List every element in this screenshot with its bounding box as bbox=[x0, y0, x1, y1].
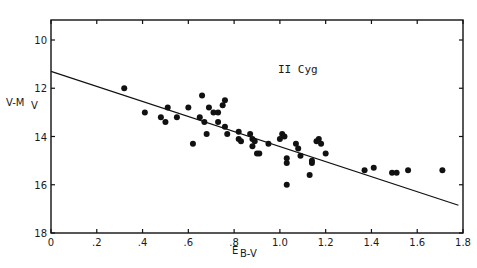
data-point bbox=[165, 105, 171, 111]
y-tick-label: 14 bbox=[34, 132, 47, 143]
cluster-annotation: II Cyg bbox=[278, 63, 318, 76]
data-point bbox=[284, 155, 290, 161]
data-point bbox=[284, 182, 290, 188]
data-point bbox=[394, 170, 400, 176]
data-point bbox=[158, 114, 164, 120]
data-point bbox=[201, 119, 207, 125]
y-axis-title-main: V-M bbox=[6, 97, 25, 108]
data-point bbox=[121, 85, 127, 91]
x-tick-label: .4 bbox=[138, 237, 148, 248]
x-tick-label: 1.0 bbox=[272, 237, 288, 248]
data-point bbox=[174, 114, 180, 120]
x-axis-title-sub: B-V bbox=[240, 248, 257, 259]
data-point bbox=[215, 109, 221, 115]
data-point bbox=[323, 150, 329, 156]
x-tick-label: 1.8 bbox=[455, 237, 471, 248]
data-point bbox=[256, 150, 262, 156]
y-tick-label: 10 bbox=[34, 35, 47, 46]
y-tick-label: 18 bbox=[34, 228, 47, 239]
data-point bbox=[405, 167, 411, 173]
scatter-chart: 0.2.4.6.81.01.21.41.61.8 1012141618 II C… bbox=[0, 0, 477, 268]
data-point bbox=[190, 141, 196, 147]
y-tick-label: 16 bbox=[34, 180, 47, 191]
x-tick-label: .6 bbox=[184, 237, 194, 248]
data-point bbox=[204, 131, 210, 137]
y-axis-title-sub: V bbox=[31, 100, 38, 111]
x-tick-label: 0 bbox=[48, 237, 54, 248]
data-point bbox=[297, 153, 303, 159]
data-point bbox=[281, 134, 287, 140]
data-point bbox=[197, 114, 203, 120]
data-point bbox=[185, 105, 191, 111]
data-point bbox=[318, 141, 324, 147]
data-point bbox=[142, 109, 148, 115]
y-tick-label: 12 bbox=[34, 83, 47, 94]
data-point bbox=[224, 131, 230, 137]
data-point bbox=[162, 119, 168, 125]
data-point bbox=[295, 146, 301, 152]
x-tick-label: 1.4 bbox=[363, 237, 379, 248]
data-point bbox=[371, 165, 377, 171]
data-point bbox=[206, 105, 212, 111]
data-point bbox=[215, 119, 221, 125]
x-tick-label: 1.2 bbox=[318, 237, 334, 248]
data-point bbox=[222, 124, 228, 130]
data-point bbox=[236, 129, 242, 135]
data-point bbox=[439, 167, 445, 173]
data-point bbox=[252, 138, 258, 144]
data-point bbox=[238, 138, 244, 144]
x-axis-title-main: E bbox=[232, 245, 238, 256]
data-point bbox=[222, 97, 228, 103]
data-point bbox=[265, 141, 271, 147]
data-point bbox=[362, 167, 368, 173]
data-point bbox=[309, 160, 315, 166]
data-point bbox=[199, 92, 205, 98]
x-tick-label: .2 bbox=[92, 237, 102, 248]
x-tick-label: 1.6 bbox=[409, 237, 425, 248]
data-point bbox=[307, 172, 313, 178]
